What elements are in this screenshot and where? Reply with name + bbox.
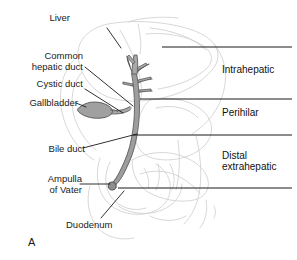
label-intrahepatic: Intrahepatic (222, 64, 274, 75)
leader-liver-line (107, 28, 121, 48)
gallbladder (78, 102, 113, 118)
label-liver: Liver (49, 12, 70, 23)
vessel-right (184, 136, 201, 224)
branch-stub-left-mid (123, 82, 133, 86)
label-bile-duct: Bile duct (49, 143, 85, 154)
pancreas-lobule-1 (144, 168, 149, 188)
label-duodenum: Duodenum (66, 219, 112, 230)
leader-bile-duct-line (83, 134, 137, 148)
anatomy-illustration (0, 0, 297, 260)
faint-mark-right (214, 206, 216, 218)
ampulla-of-vater (108, 182, 116, 190)
branch-stub-right-low (139, 89, 151, 92)
branch-stub-right-upper (137, 63, 147, 70)
vessel-left (176, 140, 179, 190)
biliary-tree-group (78, 55, 152, 190)
pancreas-lobule-2 (156, 164, 159, 190)
stomach-outline (136, 99, 212, 160)
lower-contour-1 (88, 186, 134, 239)
label-cystic-duct: Cystic duct (37, 78, 83, 89)
lower-contour-3 (200, 200, 207, 228)
label-perihilar: Perihilar (222, 107, 259, 118)
upper-faint-1 (138, 24, 141, 54)
label-distal-extrahepatic: Distal extrahepatic (222, 150, 276, 172)
lower-contour-2 (150, 216, 186, 221)
label-gallbladder: Gallbladder (29, 97, 78, 108)
panel-letter: A (28, 236, 35, 248)
liver-right-margin (192, 44, 226, 134)
bile-duct-anatomy-figure: Liver Common hepatic duct Cystic duct Ga… (0, 0, 297, 260)
leader-duodenum-line (101, 191, 124, 218)
stomach-inner-curve (156, 106, 198, 118)
label-common-hepatic-duct: Common hepatic duct (32, 50, 83, 72)
label-ampulla-of-vater: Ampulla of Vater (48, 173, 82, 195)
duct-confluence (132, 55, 138, 74)
organ-outlines-group (61, 17, 226, 239)
